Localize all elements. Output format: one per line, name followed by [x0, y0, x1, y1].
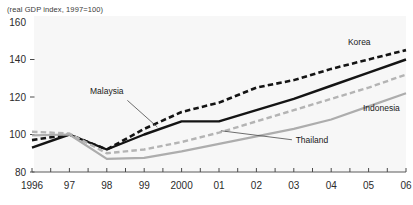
y-tick-label: 100 — [9, 129, 26, 140]
x-tick-label: 05 — [363, 180, 375, 191]
x-tick-label: 98 — [101, 180, 113, 191]
x-tick-label: 03 — [288, 180, 300, 191]
x-tick-label: 2000 — [170, 180, 193, 191]
x-tick-label: 97 — [64, 180, 76, 191]
chart-plot-area: 16014012010080 1996979899200001020304050… — [0, 0, 413, 205]
series-label-thailand: Thailand — [296, 135, 329, 145]
y-tick-label: 160 — [9, 17, 26, 28]
x-tick-label: 01 — [213, 180, 225, 191]
y-tick-label: 120 — [9, 92, 26, 103]
y-axis-group: 16014012010080 — [9, 17, 34, 178]
x-tick-label: 04 — [326, 180, 338, 191]
series-label-malaysia: Malaysia — [90, 86, 124, 96]
x-tick-label: 06 — [400, 180, 412, 191]
series-label-indonesia: Indonesia — [363, 103, 400, 113]
x-tick-label: 02 — [251, 180, 263, 191]
x-tick-label: 99 — [139, 180, 151, 191]
gdp-index-chart: (real GDP index, 1997=100) 1601401201008… — [0, 0, 413, 205]
x-tick-label: 1996 — [21, 180, 44, 191]
series-label-korea: Korea — [348, 37, 371, 47]
y-tick-label: 140 — [9, 54, 26, 65]
y-tick-label: 80 — [15, 167, 27, 178]
